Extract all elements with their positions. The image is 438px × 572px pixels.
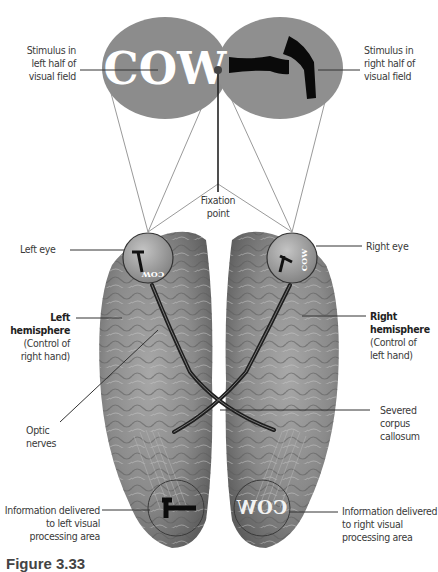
- figure-caption: Figure 3.33: [6, 555, 85, 572]
- fixation-point-label: Fixation point: [188, 194, 248, 220]
- cow-word: COW: [104, 43, 227, 94]
- left-eye-shape: COW: [123, 233, 173, 283]
- right-hemisphere-label: Right hemisphere (Control of left hand): [370, 310, 436, 362]
- right-processing-label: Information delivered to right visual pr…: [342, 505, 438, 544]
- stimulus-right-label: Stimulus in right half of visual field: [364, 44, 438, 83]
- fixation-dot: [214, 66, 222, 74]
- left-hemisphere-label: Left hemisphere (Control of right hand): [6, 311, 70, 363]
- svg-text:COW: COW: [141, 270, 164, 280]
- left-eye-label: Left eye: [20, 243, 80, 256]
- right-eye-label: Right eye: [366, 240, 426, 253]
- right-eye-shape: COW: [267, 233, 317, 283]
- optic-nerves-label: Optic nerves: [26, 424, 76, 450]
- svg-text:COW: COW: [299, 248, 309, 271]
- svg-text:COW: COW: [236, 497, 287, 518]
- corpus-callosum-label: Severed corpus callosum: [380, 404, 438, 443]
- left-processing-label: Information delivered to left visual pro…: [0, 504, 100, 543]
- stimulus-left-label: Stimulus in left half of visual field: [6, 44, 76, 83]
